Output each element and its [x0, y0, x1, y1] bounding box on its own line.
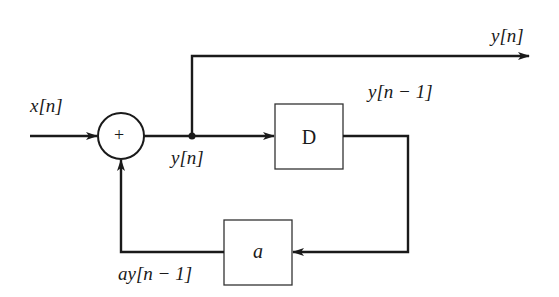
gain-output-path	[121, 160, 224, 252]
output-label: y[n]	[491, 26, 524, 45]
adder-symbol: +	[114, 126, 124, 144]
delay-block-label: D	[275, 127, 343, 147]
gain-block-label: a	[224, 241, 292, 261]
output-path	[192, 56, 529, 136]
node-label: y[n]	[171, 148, 204, 167]
delay-output-label: y[n − 1]	[368, 82, 433, 101]
gain-output-label: ay[n − 1]	[118, 264, 192, 283]
input-label: x[n]	[30, 96, 63, 115]
